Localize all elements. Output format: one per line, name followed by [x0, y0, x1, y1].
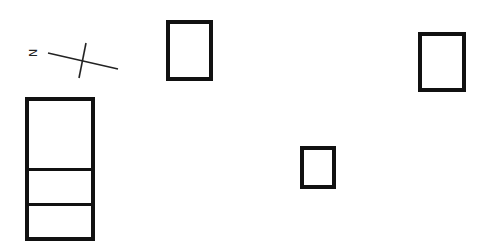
building-section-divider	[29, 203, 91, 206]
building-left-tall	[25, 97, 95, 241]
building-top-center	[166, 20, 213, 81]
building-small-center	[300, 146, 336, 189]
site-plan-canvas: N	[0, 0, 480, 252]
building-section-divider	[29, 168, 91, 171]
building-top-right	[418, 32, 466, 92]
north-label: N	[27, 49, 40, 57]
